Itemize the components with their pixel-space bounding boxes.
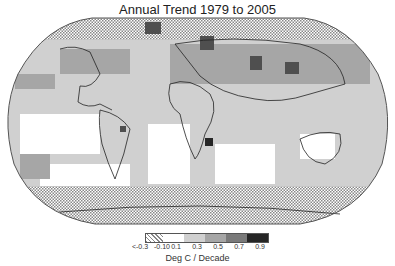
tick: 0.7 [234,243,244,250]
colorbar-bin-3 [226,234,247,242]
colorbar-bin-0 [163,234,184,242]
tick: 0.5 [213,243,223,250]
colorbar-ticks: <-0.3 -0.1 0 0.1 0.3 0.5 0.7 0.9 [0,243,395,253]
colorbar-bin-2 [205,234,226,242]
world-trend-map [0,14,395,232]
colorbar [145,233,269,243]
colorbar-unit-label: Deg C / Decade [0,253,395,263]
colorbar-bin-missing [146,234,163,242]
colorbar-bin-1 [184,234,205,242]
tick: 0.3 [192,243,202,250]
tick: 0 [166,243,170,250]
tick: 0.9 [255,243,265,250]
colorbar-bin-4 [247,234,268,242]
tick: -0.1 [154,243,166,250]
tick: <-0.3 [132,243,148,250]
tick: 0.1 [171,243,181,250]
